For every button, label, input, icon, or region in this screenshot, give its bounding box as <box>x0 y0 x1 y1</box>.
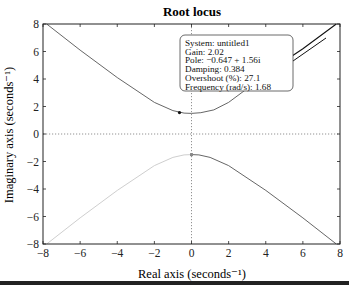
x-tick-label: −2 <box>148 247 160 259</box>
y-tick-label: 6 <box>33 46 39 58</box>
x-tick-label: 8 <box>337 247 343 259</box>
x-tick-label: 2 <box>226 247 232 259</box>
root-locus-figure: Root locus −8−6−4−20246886420−2−4−6−8 Re… <box>0 0 349 289</box>
x-axis-label: Real axis (seconds⁻¹) <box>138 267 246 281</box>
y-tick-label: 4 <box>33 73 39 85</box>
datatip-line: Frequency (rad/s): 1.68 <box>185 82 271 92</box>
selected-pole-marker <box>178 111 181 114</box>
datatip-leader-line <box>293 38 326 61</box>
y-axis-label: Imaginary axis (seconds⁻¹) <box>2 67 16 203</box>
y-tick-label: −4 <box>27 183 39 195</box>
datatip: System: untitled1Gain: 2.02Pole: −0.647 … <box>180 35 326 92</box>
bottom-rule <box>0 281 349 285</box>
y-tick-label: 8 <box>33 18 39 30</box>
locus-branch <box>192 155 337 244</box>
y-tick-label: 2 <box>33 101 39 113</box>
locus-branch <box>47 24 192 113</box>
pole-marker <box>190 153 193 156</box>
x-tick-label: 6 <box>300 247 306 259</box>
x-tick-label: −6 <box>74 247 86 259</box>
x-tick-label: −4 <box>111 247 123 259</box>
y-tick-label: 0 <box>33 128 39 140</box>
y-tick-label: −6 <box>27 211 39 223</box>
x-tick-label: 4 <box>263 247 269 259</box>
locus-branch <box>47 155 192 244</box>
y-tick-label: −8 <box>27 238 39 250</box>
x-tick-label: 0 <box>189 247 195 259</box>
y-tick-label: −2 <box>27 156 39 168</box>
chart-title: Root locus <box>163 4 221 19</box>
